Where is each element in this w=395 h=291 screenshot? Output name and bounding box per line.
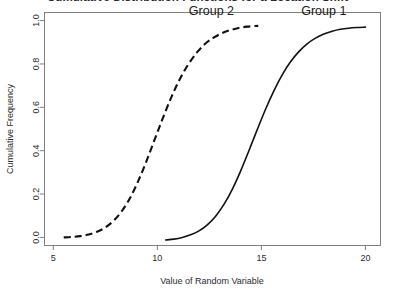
chart-title-clipped-region: Cumulative Distribution Functions for a … (0, 0, 395, 9)
x-axis-title: Value of Random Variable (160, 276, 264, 286)
plot-background (0, 0, 395, 291)
y-axis-title: Cumulative Frequency (5, 83, 15, 174)
x-tick-label: 10 (152, 253, 162, 263)
y-tick-label: 0.8 (31, 58, 41, 71)
cdf-plot: 0.00.20.40.60.81.0 5101520 Group 1 Group… (0, 0, 395, 291)
y-tick-label: 0.0 (31, 231, 41, 244)
y-tick-label: 1.0 (31, 14, 41, 27)
y-tick-label: 0.2 (31, 188, 41, 201)
chart-figure: Cumulative Distribution Functions for a … (0, 0, 395, 291)
y-tick-label: 0.4 (31, 144, 41, 157)
chart-title: Cumulative Distribution Functions for a … (0, 0, 395, 3)
x-tick-label: 15 (256, 253, 266, 263)
y-tick-label: 0.6 (31, 101, 41, 114)
x-tick-label: 5 (51, 253, 56, 263)
x-tick-label: 20 (360, 253, 370, 263)
